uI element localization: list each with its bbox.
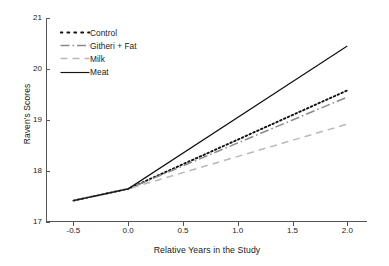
legend-item-control[interactable]: Control — [60, 27, 137, 38]
legend-swatch-icon — [60, 54, 90, 63]
legend-item-meat[interactable]: Meat — [60, 67, 137, 78]
legend-item-milk[interactable]: Milk — [60, 53, 137, 64]
x-tick-label: 1.5 — [273, 226, 313, 235]
chart-legend: ControlGitheri + FatMilkMeat — [60, 27, 137, 78]
legend-swatch-icon — [60, 68, 90, 77]
x-tick-mark — [73, 222, 74, 226]
x-tick-label: 0.5 — [163, 226, 203, 235]
x-tick-label: -0.5 — [53, 226, 93, 235]
x-tick-mark — [183, 222, 184, 226]
y-tick-text: 21 — [12, 13, 42, 23]
x-tick-label: 0.0 — [108, 226, 148, 235]
y-tick-text: 17 — [12, 217, 42, 227]
x-tick-mark — [128, 222, 129, 226]
legend-label: Milk — [90, 54, 105, 64]
y-tick-mark — [46, 69, 50, 70]
legend-swatch-icon — [60, 28, 90, 37]
series-line-control — [73, 90, 347, 200]
y-tick-mark — [46, 171, 50, 172]
legend-swatch-icon — [60, 41, 90, 50]
legend-label: Githeri + Fat — [90, 41, 137, 51]
legend-item-githeri-fat[interactable]: Githeri + Fat — [60, 40, 137, 51]
y-tick-mark — [46, 222, 50, 223]
y-tick-mark — [46, 120, 50, 121]
x-tick-label: 1.0 — [218, 226, 258, 235]
series-line-githeri-fat — [73, 97, 347, 201]
x-tick-label: 2.0 — [327, 226, 367, 235]
y-tick-label: 17 — [8, 217, 42, 227]
ravens-scores-line-chart: 1718192021 -0.50.00.51.01.52.0 Raven's S… — [0, 0, 389, 266]
x-tick-mark — [238, 222, 239, 226]
y-axis-title: Raven's Scores — [22, 34, 32, 194]
x-tick-mark — [347, 222, 348, 226]
x-axis-title: Relative Years in the Study — [46, 245, 368, 255]
y-tick-label: 21 — [8, 13, 42, 23]
legend-label: Meat — [90, 67, 109, 77]
x-tick-mark — [293, 222, 294, 226]
legend-label: Control — [90, 28, 117, 38]
y-tick-mark — [46, 18, 50, 19]
